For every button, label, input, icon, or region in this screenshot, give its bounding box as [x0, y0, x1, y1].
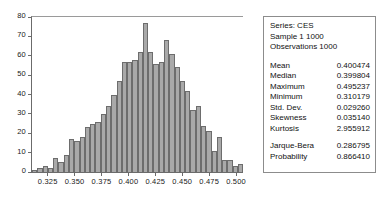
y-axis-tick-label: 30	[17, 108, 26, 117]
x-axis-tick-mark	[182, 173, 183, 176]
histogram-bar	[238, 164, 243, 172]
statistic-value: 0.310179	[327, 92, 370, 103]
statistic-value: 0.399804	[327, 71, 370, 82]
statistics-table-body: Mean0.400474Median0.399804Maximum0.49523…	[270, 61, 370, 163]
statistic-value: 0.400474	[327, 61, 370, 72]
x-axis-tick-label: 0.325	[38, 177, 58, 186]
x-axis-tick-label: 0.425	[145, 177, 165, 186]
x-axis-tick-mark	[74, 173, 75, 176]
statistic-label: Median	[270, 71, 327, 82]
statistics-row: Jarque-Bera0.286795	[270, 141, 370, 152]
statistics-table: Mean0.400474Median0.399804Maximum0.49523…	[270, 61, 370, 163]
observations-line: Observations 1000	[270, 42, 370, 53]
statistic-label: Skewness	[270, 113, 327, 124]
statistic-value: 0.866410	[327, 152, 370, 163]
histogram-statistics-view: 01020304050607080 0.3250.3500.3750.4000.…	[0, 0, 380, 204]
x-axis: 0.3250.3500.3750.4000.4250.4500.4750.500	[31, 173, 243, 195]
statistic-label: Jarque-Bera	[270, 141, 327, 152]
x-axis-tick-mark	[101, 173, 102, 176]
x-axis-tick-label: 0.475	[199, 177, 219, 186]
histogram-bars	[32, 17, 243, 172]
plot-area	[32, 17, 243, 172]
statistics-spacer-cell	[270, 134, 370, 141]
statistics-row: Std. Dev.0.029260	[270, 103, 370, 114]
statistics-spacer	[270, 134, 370, 141]
statistic-label: Maximum	[270, 82, 327, 93]
statistics-row: Skewness0.035140	[270, 113, 370, 124]
x-axis-tick-label: 0.450	[172, 177, 192, 186]
series-name-line: Series: CES	[270, 21, 370, 32]
x-axis-tick-label: 0.500	[226, 177, 246, 186]
x-axis-tick-mark	[236, 173, 237, 176]
statistic-label: Kurtosis	[270, 124, 327, 135]
statistics-row: Maximum0.495237	[270, 82, 370, 93]
y-axis-tick-label: 70	[17, 30, 26, 39]
statistics-row: Probability0.866410	[270, 152, 370, 163]
y-axis-tick-label: 40	[17, 89, 26, 98]
y-axis-tick-label: 60	[17, 50, 26, 59]
x-axis-tick-label: 0.350	[65, 177, 85, 186]
y-axis-tick-label: 0	[22, 166, 26, 175]
x-axis-tick-label: 0.375	[92, 177, 112, 186]
statistics-panel: Series: CES Sample 1 1000 Observations 1…	[263, 16, 376, 173]
statistic-value: 0.286795	[327, 141, 370, 152]
statistics-row: Median0.399804	[270, 71, 370, 82]
x-axis-tick-label: 0.400	[119, 177, 139, 186]
y-axis-tick-label: 80	[17, 11, 26, 20]
statistic-value: 0.495237	[327, 82, 370, 93]
statistic-label: Probability	[270, 152, 327, 163]
statistics-row: Kurtosis2.955912	[270, 124, 370, 135]
x-axis-tick-mark	[128, 173, 129, 176]
statistic-label: Mean	[270, 61, 327, 72]
sample-range-line: Sample 1 1000	[270, 32, 370, 43]
y-axis-tick-label: 20	[17, 127, 26, 136]
y-axis: 01020304050607080	[0, 16, 31, 173]
statistic-value: 0.035140	[327, 113, 370, 124]
statistic-value: 2.955912	[327, 124, 370, 135]
histogram-chart: 01020304050607080 0.3250.3500.3750.4000.…	[0, 0, 248, 204]
x-axis-tick-mark	[47, 173, 48, 176]
plot-frame	[31, 16, 243, 173]
statistics-header: Series: CES Sample 1 1000 Observations 1…	[270, 21, 370, 53]
statistics-row: Minimum0.310179	[270, 92, 370, 103]
statistics-row: Mean0.400474	[270, 61, 370, 72]
statistic-value: 0.029260	[327, 103, 370, 114]
y-axis-tick-label: 10	[17, 147, 26, 156]
x-axis-tick-mark	[155, 173, 156, 176]
x-axis-tick-mark	[209, 173, 210, 176]
y-axis-tick-label: 50	[17, 69, 26, 78]
statistic-label: Std. Dev.	[270, 103, 327, 114]
statistic-label: Minimum	[270, 92, 327, 103]
